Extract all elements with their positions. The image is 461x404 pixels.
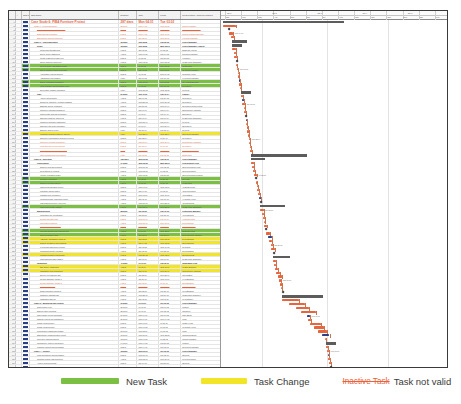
task-mode-icon[interactable]	[22, 108, 30, 111]
finish-date-cell[interactable]: Tue 15.12	[159, 309, 181, 312]
finish-date-cell[interactable]: Mon 18.01	[159, 357, 181, 360]
task-mode-icon[interactable]	[22, 241, 30, 244]
task-sheet[interactable]: i Task Mode Task Name Duration Start Fin…	[9, 11, 221, 367]
finish-date-cell[interactable]: Wed 21.10	[159, 285, 181, 288]
task-mode-icon[interactable]	[22, 64, 30, 67]
predecessors-cell[interactable]: 40;Sponsor	[181, 181, 220, 184]
task-mode-icon[interactable]	[22, 277, 30, 280]
predecessors-cell[interactable]: 42;Procurement	[181, 189, 220, 192]
task-name-cell[interactable]: Quality audit round 2	[30, 325, 120, 328]
task-mode-icon[interactable]	[22, 237, 30, 240]
task-mode-icon[interactable]	[22, 20, 30, 23]
start-date-cell[interactable]: Fri 22.05	[137, 177, 159, 180]
predecessors-cell[interactable]: 29;Planner	[181, 136, 220, 139]
predecessors-cell[interactable]: 28;Project Manager	[181, 132, 220, 135]
duration-cell[interactable]: 58 days	[119, 209, 137, 212]
row-number-cell[interactable]: 17	[9, 84, 16, 87]
row-number-cell[interactable]: 77	[9, 325, 16, 328]
duration-cell[interactable]: 2 days	[119, 345, 137, 348]
predecessors-cell[interactable]: 25;Planner	[181, 124, 220, 127]
finish-date-cell[interactable]: Tue 03.02	[159, 20, 181, 23]
gantt-task-bar[interactable]	[314, 326, 324, 328]
finish-date-cell[interactable]: Mon 02.03	[159, 64, 181, 67]
task-mode-icon[interactable]	[22, 217, 30, 220]
predecessors-cell[interactable]: 65;Installation	[181, 281, 220, 284]
task-name-cell[interactable]: Packaging design validated	[30, 249, 120, 252]
task-name-cell[interactable]: Procurement	[30, 161, 120, 164]
duration-cell[interactable]: 5 days	[119, 165, 137, 168]
task-mode-icon[interactable]	[22, 297, 30, 300]
predecessors-cell[interactable]: 46;Steering Committee	[181, 205, 220, 208]
duration-cell[interactable]: 18 days	[119, 349, 137, 352]
predecessors-cell[interactable]: Finance	[181, 341, 220, 344]
predecessors-cell[interactable]: 41;Engineering	[181, 185, 220, 188]
finish-date-cell[interactable]: Fri 29.05	[159, 177, 181, 180]
task-name-cell[interactable]: First material delivery received	[30, 201, 120, 204]
finish-date-cell[interactable]: Wed 21.01	[159, 36, 181, 39]
start-date-cell[interactable]: Wed 06.01	[137, 353, 159, 356]
finish-date-cell[interactable]: Fri 16.10	[159, 281, 181, 284]
row-number-cell[interactable]: 14	[9, 72, 16, 75]
start-date-cell[interactable]: Thu 19.03	[137, 96, 159, 99]
row-number-cell[interactable]: 81	[9, 341, 16, 344]
finish-date-cell[interactable]: Fri 11.12	[159, 325, 181, 328]
row-number-cell[interactable]: 57	[9, 245, 16, 248]
gantt-summary-bar[interactable]	[232, 44, 242, 47]
task-name-cell[interactable]: Incoming quality inspection setup	[30, 197, 120, 200]
row-number-cell[interactable]: 34	[9, 153, 16, 156]
task-mode-icon[interactable]	[22, 149, 30, 152]
task-name-cell[interactable]: Stakeholder analysis complete	[30, 36, 120, 39]
row-number-cell[interactable]: 79	[9, 333, 16, 336]
task-mode-icon[interactable]	[22, 361, 30, 364]
duration-cell[interactable]: 6 days	[119, 177, 137, 180]
task-mode-icon[interactable]	[22, 76, 30, 79]
task-mode-icon[interactable]	[22, 153, 30, 156]
duration-cell[interactable]: 6 days	[119, 213, 137, 216]
predecessors-cell[interactable]: 15;Analyst;Sponsor	[181, 80, 220, 83]
finish-date-cell[interactable]: Thu 12.03	[159, 80, 181, 83]
task-mode-icon[interactable]	[22, 253, 30, 256]
task-name-cell[interactable]: Scope verification workshop	[30, 80, 120, 83]
duration-cell[interactable]: 3 days	[119, 225, 137, 228]
duration-cell[interactable]: 26 days	[119, 317, 137, 320]
finish-date-cell[interactable]: Thu 21.05	[159, 173, 181, 176]
finish-date-cell[interactable]: Mon 09.03	[159, 72, 181, 75]
gantt-summary-bar[interactable]	[282, 295, 322, 298]
finish-date-cell[interactable]: Tue 14.04	[159, 112, 181, 115]
task-name-cell[interactable]: Phase 0 - Project Definition	[30, 24, 120, 27]
start-date-cell[interactable]: Wed 13.01	[137, 357, 159, 360]
predecessors-cell[interactable]: Production Manager	[181, 209, 220, 212]
task-mode-icon[interactable]	[22, 161, 30, 164]
start-date-cell[interactable]: Wed 08.07	[137, 221, 159, 224]
row-number-cell[interactable]: 55	[9, 237, 16, 240]
row-number-cell[interactable]: 42	[9, 185, 16, 188]
duration-cell[interactable]: 3 days	[119, 169, 137, 172]
row-number-cell[interactable]: 86	[9, 361, 16, 364]
predecessors-cell[interactable]: 35;Procurement Lead	[181, 165, 220, 168]
start-date-cell[interactable]: Fri 13.03	[137, 84, 159, 87]
table-row[interactable]: 87Lessons learned final workshop2 daysFr…	[9, 365, 220, 367]
task-mode-icon[interactable]	[22, 309, 30, 312]
start-date-cell[interactable]: Thu 04.06	[137, 189, 159, 192]
start-date-cell[interactable]: Tue 07.04	[137, 108, 159, 111]
task-name-cell[interactable]: Contingency reserve monitored	[30, 341, 120, 344]
start-date-cell[interactable]: Fri 22.01	[137, 365, 159, 367]
start-date-cell[interactable]: Thu 05.02	[137, 48, 159, 51]
start-date-cell[interactable]: Mon 19.10	[137, 285, 159, 288]
task-name-cell[interactable]: Vendor evaluation matrix	[30, 173, 120, 176]
task-mode-icon[interactable]	[22, 321, 30, 324]
start-date-cell[interactable]: Wed 26.08	[137, 253, 159, 256]
finish-date-cell[interactable]: Thu 16.04	[159, 116, 181, 119]
start-date-cell[interactable]: Tue 05.05	[137, 153, 159, 156]
finish-date-cell[interactable]: Thu 10.09	[159, 257, 181, 260]
start-date-cell[interactable]: Wed 18.03	[137, 88, 159, 91]
task-name-cell[interactable]: Supplier long list prepared	[30, 165, 120, 168]
row-number-cell[interactable]: 4	[9, 32, 16, 35]
row-number-cell[interactable]: 73	[9, 309, 16, 312]
task-mode-icon[interactable]	[22, 345, 30, 348]
finish-date-cell[interactable]: Tue 12.01	[159, 353, 181, 356]
start-date-cell[interactable]: Fri 10.04	[137, 112, 159, 115]
start-date-cell[interactable]: Fri 11.09	[137, 265, 159, 268]
start-date-cell[interactable]: Thu 16.04	[137, 116, 159, 119]
task-mode-icon[interactable]	[22, 132, 30, 135]
